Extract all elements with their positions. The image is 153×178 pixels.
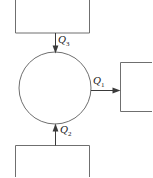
- heat-flow-right-subscript: 1: [101, 81, 105, 89]
- heat-flow-right-symbol: Q: [93, 74, 101, 86]
- heat-flow-top-label: Q3: [58, 34, 69, 45]
- diagram-canvas: Q3 Q1 Q2: [0, 0, 152, 177]
- heat-flow-bottom-subscript: 2: [68, 130, 72, 138]
- heat-flow-bottom-arrowhead: [53, 124, 59, 132]
- heat-flow-top-symbol: Q: [58, 33, 66, 45]
- diagram-graphics: [0, 0, 152, 177]
- system-circle: [19, 52, 91, 124]
- top-reservoir-outline: [16, 0, 90, 33]
- heat-flow-right-arrowhead: [113, 88, 121, 94]
- heat-flow-top-subscript: 3: [66, 40, 70, 48]
- heat-flow-bottom-label: Q2: [60, 124, 71, 135]
- heat-flow-right-label: Q1: [93, 75, 104, 86]
- bottom-reservoir-outline: [16, 146, 90, 178]
- heat-flow-bottom-symbol: Q: [60, 123, 68, 135]
- right-reservoir-outline: [121, 63, 153, 112]
